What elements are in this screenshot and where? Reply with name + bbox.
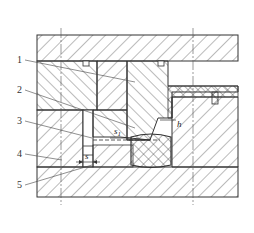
workpiece-section — [131, 134, 171, 168]
bottom-plate — [37, 167, 238, 197]
upper-middle-block — [97, 61, 127, 110]
callout-5: 5 — [17, 179, 22, 190]
callout-1: 1 — [17, 54, 22, 65]
dimension-h: h — [160, 119, 182, 129]
top-plate — [37, 35, 238, 61]
callout-2: 2 — [17, 84, 22, 95]
part-4-lower-left — [37, 110, 83, 167]
dim-s-label: s — [85, 151, 89, 161]
callout-3: 3 — [17, 115, 22, 126]
callout-4: 4 — [17, 148, 22, 159]
dim-h-label: h — [177, 119, 182, 129]
mold-section-diagram: s s1 h 1 2 3 4 5 — [0, 0, 254, 233]
